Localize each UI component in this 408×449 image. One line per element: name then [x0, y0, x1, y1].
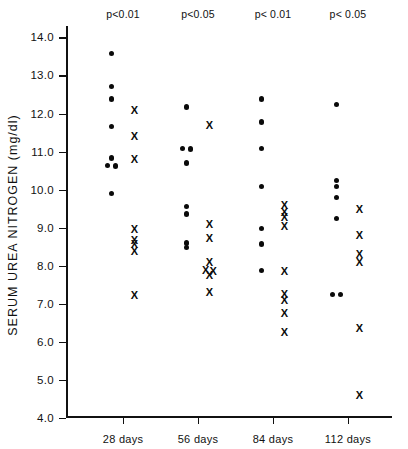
- data-point-dot: [184, 104, 189, 109]
- data-point-dot: [334, 102, 339, 107]
- data-point-x: X: [131, 105, 138, 116]
- data-point-x: X: [356, 230, 363, 241]
- data-point-x: X: [206, 286, 213, 297]
- y-tick-label: 7.0: [37, 298, 54, 310]
- data-point-dot: [330, 292, 335, 297]
- data-point-x: X: [356, 204, 363, 215]
- y-axis-title: SERUM UREA NITROGEN (mg/dl): [6, 114, 20, 335]
- data-point-dot: [184, 204, 189, 209]
- data-point-x: X: [356, 323, 363, 334]
- y-axis-title-container: SERUM UREA NITROGEN (mg/dl): [0, 0, 26, 449]
- p-value-label: p< 0.05: [330, 8, 367, 20]
- y-tick: 6.0: [59, 342, 66, 343]
- data-point-dot: [109, 124, 114, 129]
- p-value-label: p<0.05: [181, 8, 215, 20]
- y-tick: 12.0: [59, 114, 66, 115]
- p-value-label: p< 0.01: [255, 8, 292, 20]
- data-point-x: X: [356, 256, 363, 267]
- chart-page: SERUM UREA NITROGEN (mg/dl) 14.013.012.0…: [0, 0, 408, 449]
- data-point-dot: [109, 191, 114, 196]
- data-point-dot: [334, 195, 339, 200]
- y-tick: 11.0: [59, 152, 66, 153]
- data-point-dot: [259, 268, 264, 273]
- x-tick-label: 56 days: [178, 433, 219, 445]
- x-axis-line: [66, 416, 392, 418]
- data-point-dot: [180, 146, 185, 151]
- data-point-dot: [188, 146, 193, 151]
- p-value-label: p<0.01: [106, 8, 140, 20]
- data-point-dot: [334, 178, 339, 183]
- data-point-x: X: [131, 290, 138, 301]
- y-tick: 5.0: [59, 380, 66, 381]
- x-tick: 112 days: [348, 418, 349, 424]
- data-point-dot: [113, 163, 118, 168]
- data-point-dot: [334, 184, 339, 189]
- data-point-x: X: [131, 131, 138, 142]
- data-point-dot: [109, 96, 114, 101]
- y-axis-line: [66, 26, 68, 418]
- data-point-x: X: [281, 266, 288, 277]
- x-tick: 84 days: [273, 418, 274, 424]
- y-tick-label: 13.0: [30, 69, 54, 81]
- data-point-dot: [259, 184, 264, 189]
- data-point-x: X: [206, 233, 213, 244]
- data-point-x: X: [281, 295, 288, 306]
- data-point-dot: [184, 160, 189, 165]
- data-point-dot: [334, 216, 339, 221]
- data-point-dot: [184, 211, 189, 216]
- y-tick-label: 5.0: [37, 374, 54, 386]
- y-tick: 7.0: [59, 304, 66, 305]
- y-tick-label: 10.0: [30, 184, 54, 196]
- y-tick-label: 11.0: [31, 146, 54, 158]
- x-tick-label: 112 days: [325, 433, 371, 445]
- data-point-x: X: [131, 154, 138, 165]
- data-point-x: X: [206, 218, 213, 229]
- x-tick: 28 days: [123, 418, 124, 424]
- data-point-dot: [109, 84, 114, 89]
- y-tick-label: 14.0: [30, 31, 54, 43]
- y-tick-label: 12.0: [30, 108, 54, 120]
- data-point-dot: [259, 96, 264, 101]
- x-tick: 56 days: [198, 418, 199, 424]
- data-point-dot: [184, 245, 189, 250]
- y-tick: 13.0: [59, 75, 66, 76]
- data-point-dot: [259, 241, 264, 246]
- y-tick: 10.0: [59, 190, 66, 191]
- data-point-x: X: [206, 119, 213, 130]
- data-point-dot: [259, 119, 264, 124]
- y-tick-label: 4.0: [37, 412, 54, 424]
- y-tick: 4.0: [59, 418, 66, 419]
- y-tick-label: 6.0: [37, 336, 54, 348]
- data-point-x: X: [281, 220, 288, 231]
- data-point-dot: [338, 292, 343, 297]
- data-point-x: X: [131, 245, 138, 256]
- data-point-x: X: [281, 326, 288, 337]
- plot-area: 14.013.012.011.010.09.08.07.06.05.04.0 2…: [66, 26, 392, 418]
- data-point-x: X: [356, 390, 363, 401]
- data-point-x: X: [206, 269, 213, 280]
- data-point-dot: [109, 155, 114, 160]
- x-tick-label: 84 days: [253, 433, 294, 445]
- data-point-dot: [259, 226, 264, 231]
- y-tick-label: 9.0: [37, 222, 54, 234]
- data-point-dot: [105, 163, 110, 168]
- y-tick: 14.0: [59, 37, 66, 38]
- y-tick-label: 8.0: [37, 260, 54, 272]
- data-point-x: X: [281, 307, 288, 318]
- x-tick-label: 28 days: [103, 433, 144, 445]
- y-tick: 8.0: [59, 266, 66, 267]
- data-point-dot: [109, 51, 114, 56]
- y-tick: 9.0: [59, 228, 66, 229]
- data-point-dot: [259, 146, 264, 151]
